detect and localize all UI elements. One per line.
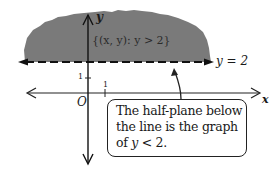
boundary-line-left-arrowhead [18, 59, 28, 66]
shaded-region-label: {(x, y): y > 2} [92, 34, 171, 47]
y-tick-label: 1 [78, 72, 83, 81]
callout-line-3-suffix: < 2. [138, 135, 167, 150]
callout-line-1: The half-plane below [116, 103, 238, 119]
callout-box: The half-plane below the line is the gra… [107, 99, 247, 157]
x-tick-label: 1 [103, 80, 108, 89]
callout-line-3-variable: y [131, 135, 138, 150]
boundary-line-label: y = 2 [216, 54, 248, 68]
callout-line-3-prefix: of [116, 135, 131, 150]
callout-pointer-line [175, 72, 181, 99]
boundary-line-equation: y = 2 [216, 54, 248, 68]
y-axis-label: y [96, 10, 103, 24]
x-axis-label: x [262, 93, 269, 106]
callout-pointer-arrowhead [171, 68, 178, 76]
callout-line-2: the line is the graph [116, 119, 238, 135]
callout-line-3: of y < 2. [116, 135, 238, 151]
origin-label: O [77, 95, 87, 109]
half-plane-diagram: {(x, y): y > 2} y = 2 y x O 1 1 The half… [0, 0, 280, 170]
